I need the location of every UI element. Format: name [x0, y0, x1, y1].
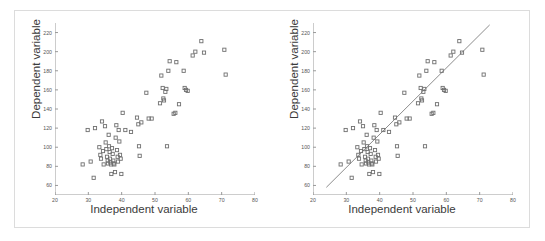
- data-point: [160, 74, 163, 77]
- figure-container: Dependent variable 608010012014016018020…: [14, 10, 530, 228]
- data-point: [357, 157, 360, 160]
- data-point: [101, 149, 104, 152]
- data-point: [419, 86, 422, 89]
- data-point: [99, 157, 102, 160]
- data-point: [481, 48, 484, 51]
- scatter-svg: [55, 23, 255, 195]
- y-tick-label: 60: [46, 182, 52, 188]
- data-point: [93, 127, 96, 130]
- y-axis-ticks: 6080100120140160180200220: [37, 23, 52, 195]
- data-point: [129, 130, 132, 133]
- data-point: [416, 102, 419, 105]
- data-point: [356, 146, 359, 149]
- data-point: [168, 60, 171, 63]
- data-point: [99, 153, 102, 156]
- data-point: [167, 69, 170, 72]
- data-point: [98, 146, 101, 149]
- y-tick-label: 200: [43, 49, 52, 55]
- data-point: [107, 133, 110, 136]
- y-tick-label: 100: [43, 144, 52, 150]
- x-axis-title: Independent variable: [273, 203, 531, 215]
- data-point: [403, 91, 406, 94]
- y-tick-label: 200: [301, 49, 310, 55]
- data-point: [358, 120, 361, 123]
- data-point: [347, 160, 350, 163]
- data-point: [124, 128, 127, 131]
- y-axis-ticks: 6080100120140160180200220: [295, 23, 310, 195]
- data-point: [182, 69, 185, 72]
- y-tick-label: 100: [301, 144, 310, 150]
- data-point: [120, 172, 123, 175]
- data-point: [362, 141, 365, 144]
- data-point: [376, 140, 379, 143]
- data-point: [458, 40, 461, 43]
- data-point: [110, 172, 113, 175]
- data-point: [371, 170, 374, 173]
- plot-area: [55, 23, 255, 195]
- data-point: [224, 73, 227, 76]
- data-point: [191, 54, 194, 57]
- data-point: [395, 145, 398, 148]
- data-point: [89, 160, 92, 163]
- y-tick-label: 160: [301, 87, 310, 93]
- chart-panel-scatter: Dependent variable 608010012014016018020…: [15, 11, 273, 227]
- data-point: [449, 54, 452, 57]
- y-tick-label: 160: [43, 87, 52, 93]
- regression-line: [326, 25, 489, 187]
- y-tick-label: 140: [301, 106, 310, 112]
- data-point: [103, 125, 106, 128]
- y-tick-label: 180: [301, 68, 310, 74]
- data-point: [387, 130, 390, 133]
- data-point: [433, 61, 436, 64]
- data-point: [92, 176, 95, 179]
- data-point: [114, 136, 117, 139]
- data-point: [351, 127, 354, 130]
- data-points: [81, 40, 227, 180]
- data-point: [418, 74, 421, 77]
- data-point: [339, 163, 342, 166]
- data-point: [375, 128, 378, 131]
- y-tick-label: 220: [301, 30, 310, 36]
- data-point: [452, 50, 455, 53]
- data-point: [223, 48, 226, 51]
- data-point: [161, 86, 164, 89]
- y-tick-label: 120: [43, 125, 52, 131]
- y-tick-label: 80: [46, 163, 52, 169]
- data-point: [365, 133, 368, 136]
- data-point: [113, 170, 116, 173]
- data-point: [104, 141, 107, 144]
- y-tick-label: 120: [301, 125, 310, 131]
- axis-lines: [313, 23, 513, 195]
- data-point: [373, 124, 376, 127]
- data-point: [202, 51, 205, 54]
- x-axis-title: Independent variable: [15, 203, 273, 215]
- data-point: [200, 40, 203, 43]
- data-point: [138, 154, 141, 157]
- data-points: [339, 40, 485, 180]
- data-point: [373, 148, 376, 151]
- data-point: [115, 148, 118, 151]
- data-point: [135, 116, 138, 119]
- plot-area: [313, 23, 513, 195]
- data-point: [368, 172, 371, 175]
- data-point: [379, 111, 382, 114]
- data-point: [165, 145, 168, 148]
- data-point: [378, 172, 381, 175]
- data-point: [177, 103, 180, 106]
- data-point: [145, 91, 148, 94]
- chart-panel-scatter-with-fit: Dependent variable 608010012014016018020…: [273, 11, 531, 227]
- data-point: [350, 176, 353, 179]
- data-point: [81, 163, 84, 166]
- data-point: [118, 140, 121, 143]
- data-point: [194, 50, 197, 53]
- data-point: [482, 73, 485, 76]
- data-point: [435, 103, 438, 106]
- data-point: [121, 111, 124, 114]
- data-point: [158, 102, 161, 105]
- y-tick-label: 80: [304, 163, 310, 169]
- y-tick-label: 180: [43, 68, 52, 74]
- data-point: [115, 124, 118, 127]
- data-point: [86, 128, 89, 131]
- scatter-svg: [313, 23, 513, 195]
- data-point: [396, 154, 399, 157]
